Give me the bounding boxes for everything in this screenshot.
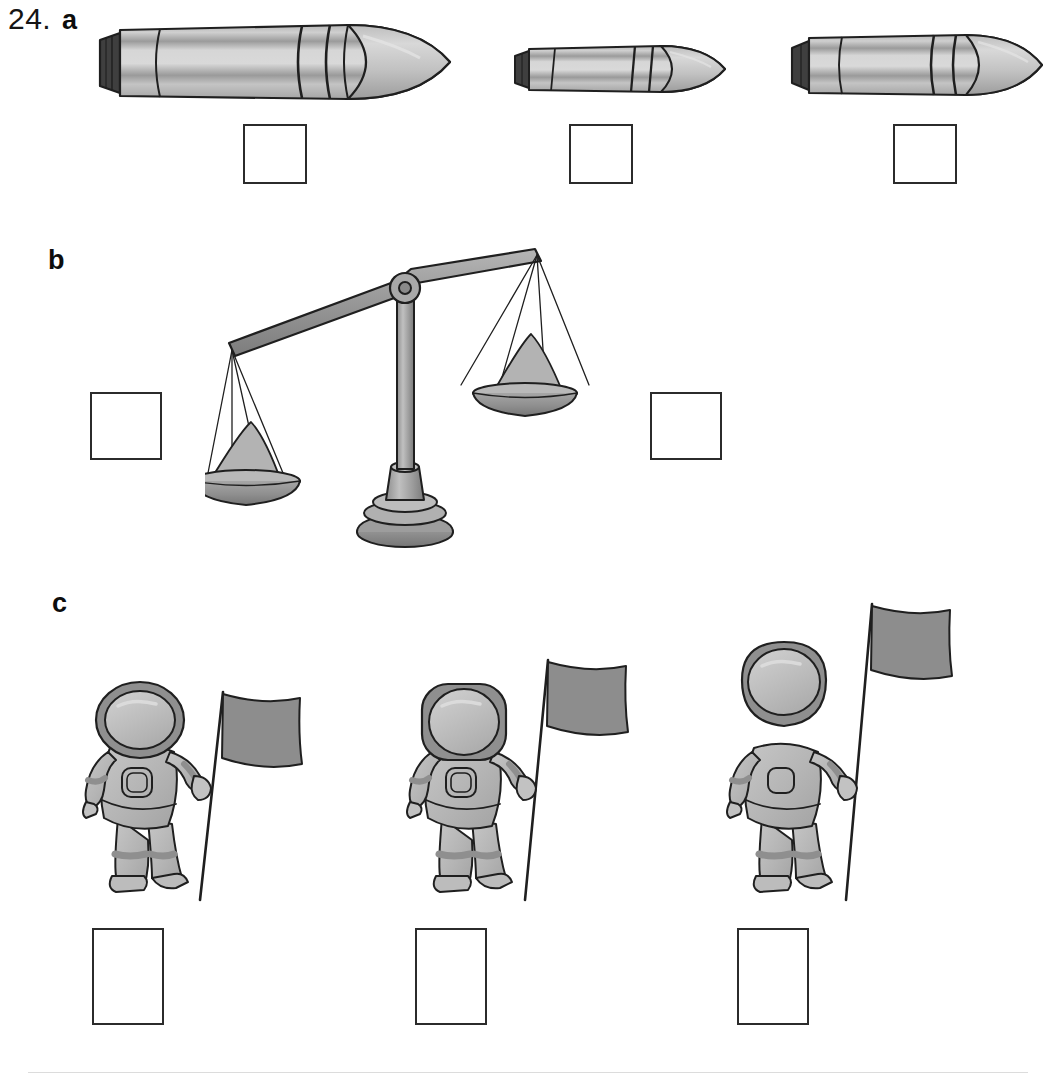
astronaut-flag-medium — [396, 640, 646, 908]
page-footer-rule — [28, 1072, 1028, 1073]
answer-box-c1[interactable] — [92, 928, 164, 1025]
part-label-b: b — [48, 247, 65, 274]
answer-box-a1[interactable] — [243, 124, 307, 184]
worksheet-page: 24. a — [0, 0, 1056, 1079]
part-label-c: c — [52, 590, 67, 617]
answer-box-c2[interactable] — [415, 928, 487, 1025]
answer-box-a2[interactable] — [569, 124, 633, 184]
answer-box-c3[interactable] — [737, 928, 809, 1025]
rocket-medium — [790, 24, 1052, 106]
astronaut-flag-tall — [716, 596, 966, 908]
question-number: 24. — [8, 4, 51, 34]
rocket-large — [98, 14, 468, 110]
answer-box-a3[interactable] — [893, 124, 957, 184]
balance-scale — [205, 245, 605, 555]
astronaut-flag-short — [72, 672, 322, 908]
answer-box-b-right[interactable] — [650, 392, 722, 460]
rocket-small — [513, 38, 735, 100]
part-label-a: a — [62, 7, 77, 34]
answer-box-b-left[interactable] — [90, 392, 162, 460]
